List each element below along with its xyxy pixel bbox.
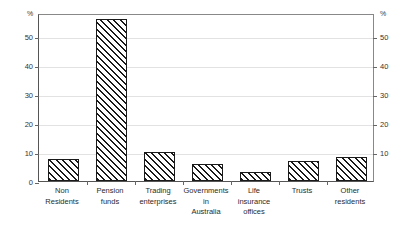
x-axis-category-label: Trading enterprises [134,186,182,207]
bar [240,172,271,181]
gridline [39,38,373,39]
x-axis-category-label: Other residents [326,186,374,207]
gridline [39,125,373,126]
y-axis-tick-label-left: 20 [25,121,33,129]
y-axis-tick-label-left: 0 [29,179,33,187]
y-axis-tick-label-left: 30 [25,92,33,100]
x-axis-labels: Non ResidentsPension fundsTrading enterp… [38,186,374,230]
y-axis-tick-right [373,154,377,155]
y-axis-tick-right [373,38,377,39]
bar [192,164,223,181]
bar-chart: % % 010102020303040405050 Non ResidentsP… [0,0,409,231]
y-axis-tick-label-right: 10 [380,150,388,158]
y-axis-unit-left: % [27,10,33,18]
x-axis-tick [87,181,88,185]
y-axis-tick-left [35,125,39,126]
bar [336,157,367,181]
y-axis-tick-label-right: 40 [380,63,388,71]
x-axis-tick [327,181,328,185]
y-axis-tick-right [373,67,377,68]
gridline [39,96,373,97]
y-axis-tick-left [35,96,39,97]
x-axis-category-label: Governments in Australia [182,186,230,218]
x-axis-category-label: Non Residents [38,186,86,207]
bar [144,152,175,181]
bar [96,19,127,181]
x-axis-category-label: Pension funds [86,186,134,207]
bar [288,161,319,181]
y-axis-tick-right [373,96,377,97]
y-axis-tick-left [35,67,39,68]
y-axis-tick-label-left: 40 [25,63,33,71]
y-axis-tick-left [35,183,39,184]
bar [48,159,79,181]
y-axis-tick-left [35,38,39,39]
y-axis-tick-label-left: 10 [25,150,33,158]
gridline [39,67,373,68]
y-axis-tick-label-right: 30 [380,92,388,100]
x-axis-tick [183,181,184,185]
x-axis-tick [279,181,280,185]
y-axis-tick-label-right: 20 [380,121,388,129]
y-axis-tick-left [35,154,39,155]
y-axis-tick-label-left: 50 [25,34,33,42]
y-axis-tick-label-right: 50 [380,34,388,42]
x-axis-category-label: Trusts [278,186,326,197]
y-axis-tick-right [373,125,377,126]
y-axis-unit-right: % [380,10,386,18]
gridline [39,154,373,155]
x-axis-tick [231,181,232,185]
x-axis-tick [135,181,136,185]
x-axis-category-label: Life insurance offices [230,186,278,218]
plot-area: 010102020303040405050 [38,14,374,182]
